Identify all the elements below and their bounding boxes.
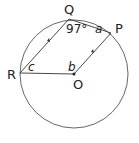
angle-q-value: 97° xyxy=(66,22,87,36)
label-r: R xyxy=(7,67,16,82)
parallel-arrow-op xyxy=(91,49,94,53)
angle-c: c xyxy=(28,60,35,74)
label-o: O xyxy=(73,77,83,92)
label-p: P xyxy=(115,21,123,36)
label-q: Q xyxy=(64,2,74,17)
radius-op xyxy=(74,33,111,74)
circle-geometry-diagram: Q P R O 97° a b c xyxy=(0,0,139,143)
angle-a: a xyxy=(95,22,102,36)
angle-b: b xyxy=(68,60,76,74)
